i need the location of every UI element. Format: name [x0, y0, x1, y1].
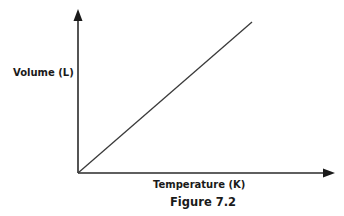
y-axis-label: Volume (L): [13, 67, 74, 78]
x-axis-label: Temperature (K): [153, 179, 245, 190]
y-axis-arrowhead-icon: [74, 9, 83, 21]
data-line-volume-vs-temperature: [78, 22, 252, 173]
figure-caption: Figure 7.2: [170, 195, 236, 209]
x-axis-arrowhead-icon: [323, 169, 335, 178]
